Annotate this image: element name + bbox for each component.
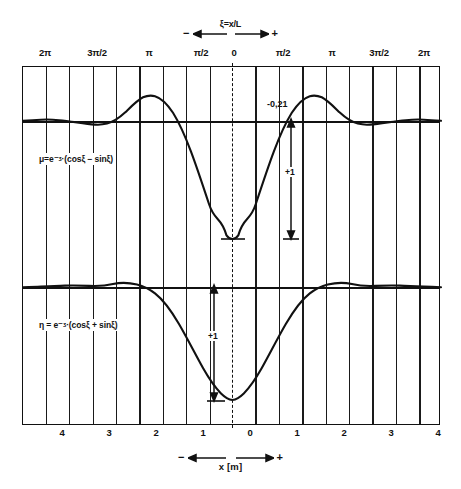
top-tick-label: 2π [418, 46, 430, 60]
top-tick-label: π/2 [194, 46, 209, 60]
bottom-axis-arrows [188, 452, 274, 463]
top-tick-label: 0 [231, 46, 236, 60]
top-axis-expression: ξ=x/L [220, 19, 241, 29]
top-tick-label: π [328, 46, 335, 60]
top-tick-label: π [145, 46, 152, 60]
bottom-axis-minus-sign: − [178, 452, 184, 463]
top-axis-plus-sign: + [272, 28, 278, 39]
bottom-tick-labels: 4 3 2 1 0 1 2 3 4 [0, 426, 461, 440]
lower-curve-eta [23, 67, 441, 426]
top-axis-minus-sign: − [183, 28, 189, 39]
bottom-tick-label: 4 [59, 426, 64, 440]
top-axis-arrows: ξ=x/L [193, 28, 269, 39]
lower-dimension-arrow [201, 283, 227, 407]
chart-figure: − ξ=x/L + 2π 3π/2 π π/2 0 π/2 π 3 [0, 0, 461, 489]
top-tick-labels: 2π 3π/2 π π/2 0 π/2 π 3π/2 2π [0, 46, 461, 60]
upper-dimension-label: +1 [284, 167, 296, 177]
top-tick-label: 3π/2 [369, 46, 389, 60]
bottom-tick-label: 1 [294, 426, 299, 440]
bottom-tick-label: 3 [388, 426, 393, 440]
bottom-axis-plus-sign: + [277, 452, 283, 463]
plot-frame: +1 +1 -0,21 μ=e⁻ᶾ·(cosξ − sinξ) η = e⁻ᶾ·… [22, 66, 440, 425]
bottom-tick-label: 0 [247, 426, 252, 440]
lower-dimension-label: +1 [207, 331, 219, 341]
upper-dimension-arrow [278, 117, 304, 245]
bottom-tick-label: 2 [153, 426, 158, 440]
lower-formula-label: η = e⁻ᶾ·(cosξ + sinξ) [37, 319, 119, 331]
upper-formula-label: μ=e⁻ᶾ·(cosξ − sinξ) [37, 153, 115, 165]
top-tick-label: π/2 [276, 46, 291, 60]
upper-minimum-tick [219, 233, 247, 245]
bottom-axis-title: − + x [m] [0, 452, 461, 472]
bottom-tick-label: 1 [200, 426, 205, 440]
bottom-tick-label: 3 [106, 426, 111, 440]
top-tick-label: 3π/2 [87, 46, 107, 60]
bottom-tick-label: 4 [435, 426, 440, 440]
top-tick-label: 2π [39, 46, 51, 60]
peak-value-annotation: -0,21 [267, 99, 288, 109]
bottom-tick-label: 2 [341, 426, 346, 440]
top-axis-title: − ξ=x/L + [0, 24, 461, 42]
